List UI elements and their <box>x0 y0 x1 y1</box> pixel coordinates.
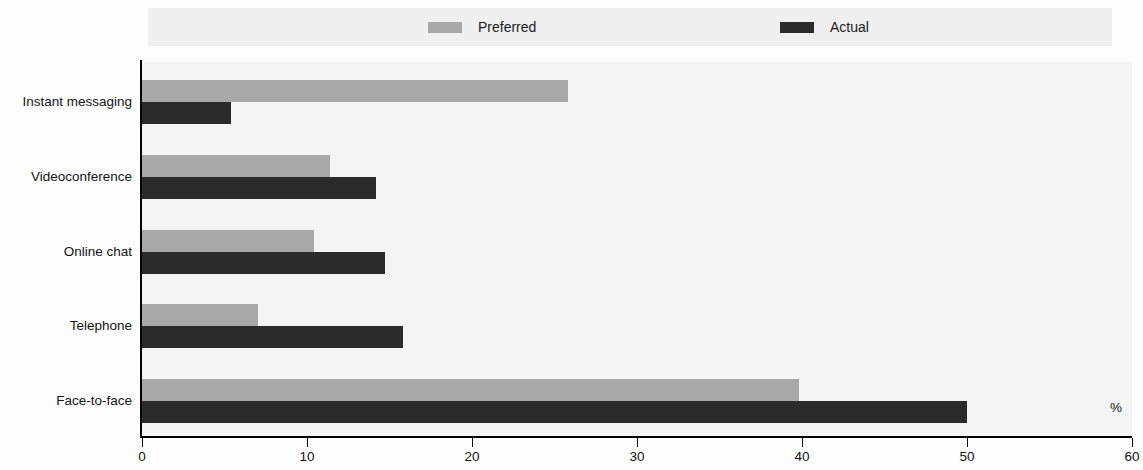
unit-label: % <box>1110 400 1122 415</box>
y-axis-label-telephone: Telephone <box>0 318 132 333</box>
legend-swatch-preferred-icon <box>428 22 462 33</box>
x-axis-tick-mark <box>1132 438 1133 447</box>
x-axis-tick-label-60: 60 <box>1124 449 1139 464</box>
y-axis-label-online-chat: Online chat <box>0 244 132 259</box>
y-axis-label-instant-messaging: Instant messaging <box>0 94 132 109</box>
x-axis-tick-label-50: 50 <box>959 449 974 464</box>
bar-chart-figure: Preferred Actual Instant messagingVideoc… <box>0 0 1143 470</box>
x-axis-tick-label-0: 0 <box>138 449 146 464</box>
legend-entry-preferred[interactable]: Preferred <box>428 8 536 46</box>
bar-group <box>142 80 1132 124</box>
x-axis-tick-mark <box>307 438 308 447</box>
bar-actual-telephone <box>142 326 403 348</box>
y-axis-label-videoconference: Videoconference <box>0 169 132 184</box>
bar-actual-instant-messaging <box>142 102 231 124</box>
bar-preferred-telephone <box>142 304 258 326</box>
x-axis-tick-label-30: 30 <box>629 449 644 464</box>
x-axis-line <box>140 436 1132 438</box>
x-axis-tick-label-40: 40 <box>794 449 809 464</box>
bar-preferred-online-chat <box>142 230 314 252</box>
bar-group <box>142 304 1132 348</box>
x-axis-tick-mark <box>472 438 473 447</box>
bar-actual-face-to-face <box>142 401 967 423</box>
y-axis-line <box>140 60 142 438</box>
x-axis-tick-mark <box>967 438 968 447</box>
x-axis-tick-mark <box>802 438 803 447</box>
bar-preferred-face-to-face <box>142 379 799 401</box>
bar-group <box>142 379 1132 423</box>
bar-preferred-videoconference <box>142 155 330 177</box>
bar-group <box>142 230 1132 274</box>
legend-label-actual: Actual <box>830 19 869 35</box>
legend-entry-actual[interactable]: Actual <box>780 8 869 46</box>
legend-swatch-actual-icon <box>780 22 814 33</box>
y-axis-label-face-to-face: Face-to-face <box>0 393 132 408</box>
chart-legend: Preferred Actual <box>148 8 1112 46</box>
bar-group <box>142 155 1132 199</box>
bar-actual-videoconference <box>142 177 376 199</box>
x-axis-tick-label-20: 20 <box>464 449 479 464</box>
bar-preferred-instant-messaging <box>142 80 568 102</box>
x-axis-tick-mark <box>142 438 143 447</box>
y-axis-tick-labels: Instant messagingVideoconferenceOnline c… <box>0 62 140 436</box>
x-axis-tick-label-10: 10 <box>299 449 314 464</box>
x-axis-tick-mark <box>637 438 638 447</box>
plot-area <box>142 62 1132 436</box>
bar-actual-online-chat <box>142 252 385 274</box>
legend-label-preferred: Preferred <box>478 19 536 35</box>
